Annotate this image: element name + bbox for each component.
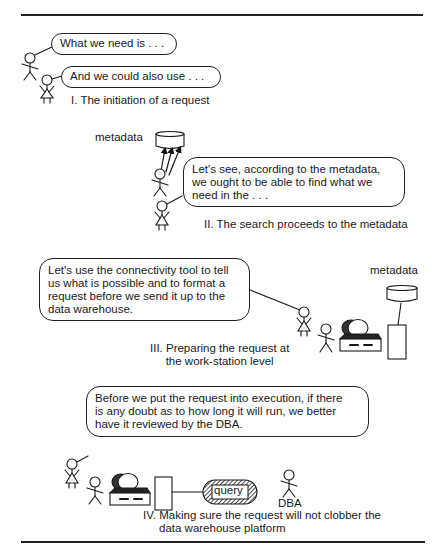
workstation-icon-panel4	[110, 474, 150, 506]
caption-line: the work-station level	[150, 355, 289, 368]
warehouse-server-icon-panel4	[155, 477, 172, 510]
caption-line: III. Preparing the request at	[150, 342, 289, 355]
bubble-line: us what is possible and to format a	[48, 277, 241, 290]
speech-bubble-search-metadata: Let's see, according to the metadata, we…	[183, 157, 405, 207]
caption-panel-3: III. Preparing the request at the work-s…	[150, 342, 289, 368]
metadata-store-icon-panel3	[387, 286, 417, 302]
bubble-line: Let's see, according to the metadata,	[192, 163, 396, 176]
warehouse-server-icon-panel3	[388, 325, 406, 359]
bubble-text: What we need is . . .	[60, 37, 164, 49]
workstation-icon-panel3	[340, 320, 381, 352]
speech-tail-3	[167, 196, 182, 204]
speech-bubble-could-also-use: And we could also use . . .	[61, 66, 221, 88]
caption-panel-4: IV. Making sure the request will not clo…	[143, 509, 381, 535]
dba-figure	[281, 470, 297, 497]
metadata-label-panel2: metadata	[95, 131, 143, 143]
speech-bubble-connectivity-tool: Let's use the connectivity tool to tell …	[39, 258, 250, 321]
speech-bubble-dba-review: Before we put the request into execution…	[86, 386, 369, 437]
bubble-line: Before we put the request into execution…	[95, 392, 360, 405]
metadata-link-line	[398, 303, 401, 325]
caption-panel-2: II. The search proceeds to the metadata	[204, 218, 408, 231]
speech-tail-5	[77, 456, 88, 462]
man-figure-panel3	[318, 324, 334, 352]
caption-line: IV. Making sure the request will not clo…	[143, 509, 381, 522]
man-figure-panel1	[22, 53, 38, 80]
woman-figure-panel4	[65, 459, 79, 488]
bubble-line: have it reviewed by the DBA.	[95, 418, 360, 431]
speech-tail-4	[250, 290, 300, 310]
speech-bubble-what-we-need: What we need is . . .	[51, 33, 177, 55]
metadata-store-icon-panel2	[156, 132, 184, 149]
caption-panel-1: I. The initiation of a request	[71, 94, 210, 107]
bubble-line: we ought to be able to find what we	[192, 176, 396, 189]
speech-tail-1	[35, 47, 52, 55]
dba-label: DBA	[278, 497, 302, 509]
bubble-line: is any doubt as to how long it will run,…	[95, 405, 360, 418]
man-figure-panel2	[152, 169, 168, 196]
metadata-label-panel3: metadata	[370, 264, 418, 276]
caption-line: data warehouse platform	[143, 522, 381, 535]
bubble-line: Let's use the connectivity tool to tell	[48, 264, 241, 277]
bubble-text: And we could also use . . .	[70, 70, 204, 82]
query-label: query	[214, 484, 243, 496]
bubble-line: request before we send it up to the	[48, 290, 241, 303]
man-figure-panel4	[87, 477, 103, 504]
bubble-line: data warehouse.	[48, 303, 241, 316]
bubble-line: need in the . . .	[192, 189, 396, 202]
woman-figure-panel2	[155, 201, 169, 230]
woman-figure-panel3	[297, 307, 311, 336]
